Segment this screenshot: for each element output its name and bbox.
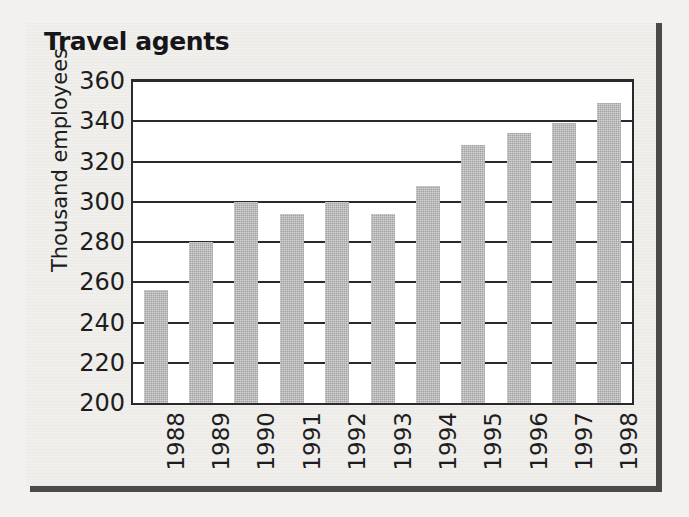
y-tick-label: 360 bbox=[79, 69, 125, 93]
y-tick-label: 260 bbox=[79, 270, 125, 294]
y-tick-label: 340 bbox=[79, 109, 125, 133]
x-tick-label: 1995 bbox=[482, 412, 505, 482]
bar-slot bbox=[507, 81, 531, 403]
x-tick-label: 1996 bbox=[528, 412, 551, 482]
bar-slot bbox=[371, 81, 395, 403]
bar bbox=[461, 145, 485, 403]
bar-slot bbox=[552, 81, 576, 403]
bar bbox=[597, 103, 621, 403]
x-tick-label: 1990 bbox=[255, 412, 278, 482]
bar-slot bbox=[325, 81, 349, 403]
y-tick-label: 320 bbox=[79, 150, 125, 174]
x-tick-label: 1991 bbox=[301, 412, 324, 482]
y-tick-label: 220 bbox=[79, 351, 125, 375]
x-tick-label: 1989 bbox=[210, 412, 233, 482]
x-tick-label: 1993 bbox=[392, 412, 415, 482]
plot-area: 200220240260280300320340360 bbox=[131, 79, 634, 405]
bar bbox=[552, 123, 576, 403]
y-axis-title: Thousand employees bbox=[48, 40, 72, 280]
bar bbox=[507, 133, 531, 403]
bar bbox=[371, 214, 395, 403]
x-tick-label: 1997 bbox=[573, 412, 596, 482]
bar-slot bbox=[280, 81, 304, 403]
x-tick-label: 1998 bbox=[618, 412, 641, 482]
x-tick-label: 1988 bbox=[165, 412, 188, 482]
bar bbox=[325, 202, 349, 403]
page-right-rule bbox=[656, 23, 662, 489]
bar-series bbox=[133, 81, 632, 403]
y-tick-label: 300 bbox=[79, 190, 125, 214]
scanned-page: Travel agents Thousand employees 2002202… bbox=[0, 0, 689, 517]
y-tick-label: 240 bbox=[79, 311, 125, 335]
bar-slot bbox=[189, 81, 213, 403]
bar bbox=[280, 214, 304, 403]
y-tick-label: 280 bbox=[79, 230, 125, 254]
bar-slot bbox=[144, 81, 168, 403]
y-tick-label: 200 bbox=[79, 391, 125, 415]
bar bbox=[144, 290, 168, 403]
bar-slot bbox=[234, 81, 258, 403]
page-bottom-rule bbox=[30, 486, 662, 492]
bar bbox=[234, 202, 258, 403]
bar bbox=[416, 186, 440, 403]
bar-slot bbox=[461, 81, 485, 403]
bar-slot bbox=[597, 81, 621, 403]
x-tick-label: 1994 bbox=[437, 412, 460, 482]
x-tick-label: 1992 bbox=[346, 412, 369, 482]
bar bbox=[189, 242, 213, 403]
bar-slot bbox=[416, 81, 440, 403]
